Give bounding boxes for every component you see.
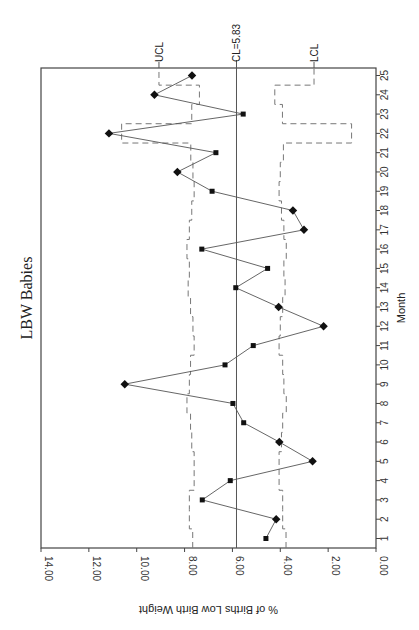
data-point-square (263, 536, 268, 541)
plot-border (41, 68, 376, 548)
month-tick-label: 8 (379, 400, 390, 406)
value-axis-title: % of Births Low Birth Weight (139, 604, 278, 616)
data-point-square (210, 189, 215, 194)
data-point-diamond (275, 438, 283, 446)
data-point-square (241, 420, 246, 425)
month-tick-label: 2 (379, 516, 390, 522)
data-point-square (200, 497, 205, 502)
lcl-line (275, 68, 352, 548)
data-line (109, 76, 324, 539)
data-point-diamond (319, 322, 327, 330)
month-tick-label: 15 (379, 262, 390, 274)
month-tick-label: 11 (379, 340, 390, 351)
month-tick-label: 6 (379, 439, 390, 445)
month-tick-label: 10 (379, 359, 390, 371)
data-point-diamond (173, 168, 181, 176)
month-tick-label: 24 (379, 89, 390, 101)
month-tick-label: 5 (379, 458, 390, 464)
data-point-square (223, 362, 228, 367)
month-tick-label: 14 (379, 282, 390, 294)
data-point-diamond (105, 129, 113, 137)
plot-frame (41, 60, 376, 548)
data-point-diamond (274, 303, 282, 311)
month-tick-label: 19 (379, 185, 390, 197)
chart-title-group: LBW Babies (18, 257, 35, 340)
month-tick-label: 1 (379, 535, 390, 541)
data-point-square (251, 343, 256, 348)
control-chart: LBW Babies 12345678910111213141516171819… (0, 0, 419, 630)
month-axis: 1234567891011121314151617181920212223242… (376, 70, 407, 542)
value-tick-label: 10.00 (139, 556, 150, 581)
ucl-label: UCL (154, 42, 165, 62)
value-tick-label: 2.00 (330, 556, 341, 576)
value-tick-label: 12.00 (91, 556, 102, 581)
data-point-diamond (121, 380, 129, 388)
month-tick-label: 22 (379, 127, 390, 139)
month-tick-label: 25 (379, 70, 390, 82)
month-tick-label: 21 (379, 147, 390, 159)
value-tick-label: 14.00 (43, 556, 54, 581)
month-tick-label: 23 (379, 108, 390, 120)
data-point-square (199, 247, 204, 252)
data-point-square (233, 285, 238, 290)
percent-axis: 0.002.004.006.008.0010.0012.0014.00% of … (41, 548, 389, 616)
month-tick-label: 13 (379, 301, 390, 313)
month-tick-label: 9 (379, 381, 390, 387)
lcl-label: LCL (309, 43, 320, 62)
cl-label: CL=5.83 (231, 23, 242, 62)
data-point-square (213, 150, 218, 155)
month-tick-label: 3 (379, 497, 390, 503)
month-tick-label: 17 (379, 224, 390, 236)
value-tick-label: 6.00 (234, 556, 245, 576)
month-tick-label: 7 (379, 420, 390, 426)
data-point-square (241, 112, 246, 117)
data-point-diamond (150, 91, 158, 99)
month-tick-label: 12 (379, 320, 390, 332)
data-point-square (228, 478, 233, 483)
data-point-square (265, 266, 270, 271)
month-tick-label: 18 (379, 205, 390, 217)
ucl-line (122, 68, 200, 548)
month-tick-label: 20 (379, 166, 390, 178)
limit-labels: UCLCL=5.83LCL (154, 23, 320, 62)
month-tick-label: 16 (379, 243, 390, 255)
value-tick-label: 4.00 (282, 556, 293, 576)
data-series (105, 71, 328, 541)
data-point-diamond (272, 515, 280, 523)
data-point-diamond (188, 71, 196, 79)
data-point-diamond (308, 457, 316, 465)
value-tick-label: 0.00 (378, 556, 389, 576)
data-point-square (230, 401, 235, 406)
month-tick-label: 4 (379, 477, 390, 483)
chart-title: LBW Babies (18, 257, 35, 340)
data-point-diamond (289, 206, 297, 214)
value-tick-label: 8.00 (187, 556, 198, 576)
month-axis-title: Month (395, 293, 407, 324)
data-point-diamond (300, 226, 308, 234)
